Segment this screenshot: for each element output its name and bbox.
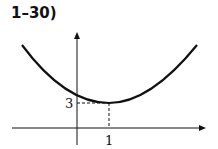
- y-axis-arrow-icon: [74, 32, 80, 39]
- y-tick-label: 3: [65, 96, 73, 111]
- parabola-curve: [22, 45, 197, 103]
- x-tick-label: 1: [105, 133, 113, 148]
- parabola-graph: 3 1: [0, 0, 218, 149]
- x-axis-arrow-icon: [199, 125, 206, 131]
